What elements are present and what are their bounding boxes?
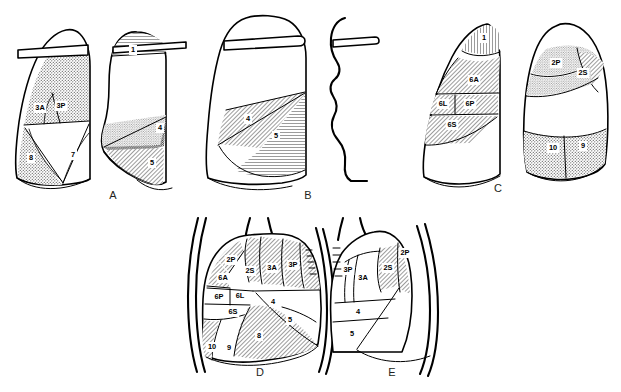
segment-label-c-6s: 6S — [447, 120, 456, 129]
segment-label-d-6p: 6P — [214, 292, 223, 301]
panel-letter-b: B — [304, 189, 311, 201]
segment-label-c-2s: 2S — [578, 68, 587, 77]
panel-b-lung — [206, 16, 306, 190]
panel-c-lung-1 — [423, 24, 500, 187]
lung-segment-diagram: 3A3P871454516A6L6P6S2P2S1092P2S3A3P6A6P6… — [0, 0, 621, 392]
segment-label-a-7: 7 — [71, 150, 75, 159]
panel-a-lung-1 — [16, 30, 90, 189]
segment-label-c-1: 1 — [482, 33, 486, 42]
panel-b-clavicle-profile — [333, 37, 379, 47]
segment-label-c-9: 9 — [581, 141, 585, 150]
panel-a-lung1-clavicle — [18, 45, 88, 58]
panel-b-profile-trace — [331, 18, 379, 181]
segment-label-d-5: 5 — [288, 315, 292, 324]
segment-label-e-5: 5 — [350, 329, 354, 338]
segment-label-b-5: 5 — [274, 131, 278, 140]
segment-label-a-3a: 3A — [35, 103, 45, 112]
segment-label-d-6a: 6A — [218, 273, 228, 282]
segment-label-c-6a: 6A — [469, 75, 479, 84]
segment-label-d-2s: 2S — [245, 266, 254, 275]
panel-a-lung-2 — [101, 32, 186, 190]
segment-label-c-10: 10 — [549, 143, 557, 152]
segment-label-d-6s: 6S — [228, 307, 237, 316]
segment-label-c-2p: 2P — [551, 58, 560, 67]
segment-label-d-10: 10 — [208, 342, 216, 351]
panel-letter-c: C — [494, 182, 502, 194]
segment-label-e-2p: 2P — [400, 248, 409, 257]
panel-c-lung-2 — [524, 24, 608, 181]
panel-letter-d: D — [256, 366, 264, 378]
segment-label-c-6l: 6L — [439, 99, 448, 108]
panel-letter-e: E — [388, 366, 395, 378]
panel-d-seg3a-shade — [262, 237, 284, 285]
segment-label-a-8: 8 — [29, 153, 33, 162]
segment-label-a-1: 1 — [131, 45, 135, 54]
segment-label-d-8: 8 — [257, 331, 261, 340]
segment-label-d-9: 9 — [227, 343, 231, 352]
segment-label-e-2s: 2S — [383, 263, 392, 272]
panel-e-thorax — [331, 218, 438, 376]
segment-label-d-6l: 6L — [236, 291, 245, 300]
panel-letter-a: A — [109, 189, 117, 201]
segment-label-c-6p: 6P — [465, 99, 474, 108]
segment-label-a-5: 5 — [150, 158, 154, 167]
segment-label-d-2p: 2P — [226, 255, 235, 264]
segment-label-a-3p: 3P — [56, 101, 65, 110]
segment-label-e-3p: 3P — [343, 265, 352, 274]
panel-e-chest-wall-inner — [417, 226, 430, 374]
segment-label-d-3a: 3A — [267, 263, 277, 272]
figure-canvas: 3A3P871454516A6L6P6S2P2S1092P2S3A3P6A6P6… — [0, 0, 621, 392]
panel-e-mediastinum-left — [338, 218, 343, 240]
segment-label-e-3a: 3A — [358, 273, 368, 282]
segment-label-d-3p: 3P — [288, 260, 297, 269]
